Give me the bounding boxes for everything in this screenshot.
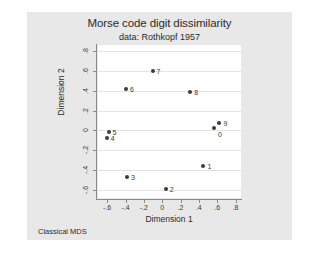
chart-subtitle: data: Rothkopf 1957 <box>27 32 292 42</box>
scatter-point-label: 6 <box>130 86 134 93</box>
scatter-point-label: 0 <box>218 131 222 138</box>
x-axis-tick <box>162 200 163 203</box>
x-axis-tick-label: -.4 <box>121 204 129 211</box>
x-axis-tick-label: -.2 <box>140 204 148 211</box>
x-axis-tick <box>236 200 237 203</box>
x-axis-tick <box>181 200 182 203</box>
x-axis-tick-label: .2 <box>178 204 184 211</box>
y-axis-tick-label: .8 <box>82 48 89 54</box>
x-axis-line <box>96 199 242 200</box>
gridline-y <box>98 170 241 171</box>
y-axis-tick <box>93 51 96 52</box>
scatter-point-label: 7 <box>157 68 161 75</box>
scatter-point-label: 4 <box>111 135 115 142</box>
x-axis-tick <box>217 200 218 203</box>
gridline-y <box>98 51 241 52</box>
scatter-point-label: 2 <box>170 185 174 192</box>
y-axis-tick <box>93 91 96 92</box>
page-title: Morse code digit dissimilarity <box>27 17 292 29</box>
y-axis-tick <box>93 170 96 171</box>
y-axis-tick-label: -.6 <box>82 186 89 194</box>
scatter-point <box>105 136 109 140</box>
gridline-y <box>98 111 241 112</box>
scatter-point <box>107 130 111 134</box>
x-axis-tick-label: .4 <box>196 204 202 211</box>
y-axis-tick <box>93 150 96 151</box>
scatter-point-label: 1 <box>207 162 211 169</box>
scatter-point-label: 3 <box>131 174 135 181</box>
chart-note: Classical MDS <box>38 227 87 236</box>
scatter-point <box>188 90 192 94</box>
scatter-point <box>125 175 129 179</box>
x-axis-title: Dimension 1 <box>96 214 242 224</box>
scatter-point <box>212 126 216 130</box>
scatter-point <box>151 69 155 73</box>
x-axis-tick-label: 0 <box>160 204 164 211</box>
screenshot-canvas: Morse code digit dissimilarity data: Rot… <box>0 0 320 253</box>
scatter-point <box>217 121 221 125</box>
y-axis-tick <box>93 190 96 191</box>
graph-region: Morse code digit dissimilarity data: Rot… <box>27 12 292 240</box>
y-axis-tick-label: .2 <box>82 108 89 114</box>
x-axis-tick <box>144 200 145 203</box>
gridline-y <box>98 71 241 72</box>
gridline-y <box>98 150 241 151</box>
x-axis-tick-label: -.6 <box>103 204 111 211</box>
x-axis-tick-label: .8 <box>233 204 239 211</box>
y-axis-tick <box>93 130 96 131</box>
y-axis-title: Dimension 2 <box>56 32 66 152</box>
scatter-point-label: 9 <box>223 120 227 127</box>
y-axis-tick <box>93 71 96 72</box>
y-axis-tick-label: .6 <box>82 68 89 74</box>
gridline-y <box>98 91 241 92</box>
x-axis-tick-label: .6 <box>214 204 220 211</box>
y-axis-tick-label: 0 <box>82 128 89 132</box>
y-axis-tick-label: .4 <box>82 88 89 94</box>
scatter-point <box>164 187 168 191</box>
y-axis-line <box>96 44 97 199</box>
y-axis-tick <box>93 111 96 112</box>
x-axis-tick <box>199 200 200 203</box>
scatter-point <box>124 87 128 91</box>
y-axis-tick-label: -.2 <box>82 146 89 154</box>
scatter-point-label: 8 <box>194 89 198 96</box>
scatter-point <box>201 164 205 168</box>
x-axis-tick <box>126 200 127 203</box>
y-axis-tick-label: -.4 <box>82 166 89 174</box>
x-axis-tick <box>107 200 108 203</box>
